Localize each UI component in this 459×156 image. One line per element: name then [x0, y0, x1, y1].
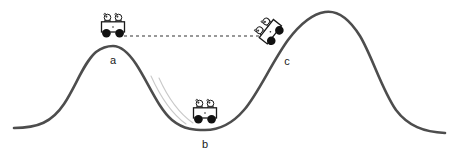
cart-b	[194, 99, 217, 123]
roller-coaster-track	[14, 12, 445, 133]
position-label-b: b	[202, 138, 208, 150]
cart-c	[253, 14, 286, 47]
position-label-a: a	[110, 54, 117, 66]
diagram-canvas: a b c	[0, 0, 459, 156]
roller-coaster-diagram: a b c	[0, 0, 459, 156]
cart-a	[102, 13, 125, 37]
position-label-c: c	[284, 55, 290, 67]
